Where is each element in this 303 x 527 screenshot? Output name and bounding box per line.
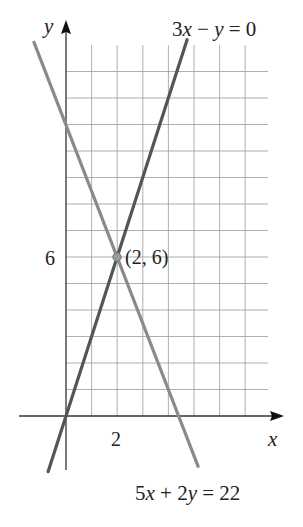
y-axis-arrow-icon	[61, 20, 71, 34]
x-tick-label-2: 2	[111, 428, 121, 450]
axes	[19, 20, 284, 470]
y-tick-label-6: 6	[45, 247, 55, 269]
x-axis-label: x	[267, 427, 278, 451]
equation-label-5x-plus-2y: 5x + 2y = 22	[135, 481, 240, 505]
line-chart: y x 2 6 (2, 6) 3x − y = 0 5x + 2y = 22	[0, 0, 303, 527]
equation-label-3x-minus-y: 3x − y = 0	[172, 17, 256, 41]
y-axis-label: y	[42, 14, 54, 38]
x-axis-arrow-icon	[270, 411, 284, 421]
intersection-point	[113, 253, 121, 261]
intersection-label: (2, 6)	[125, 246, 168, 269]
